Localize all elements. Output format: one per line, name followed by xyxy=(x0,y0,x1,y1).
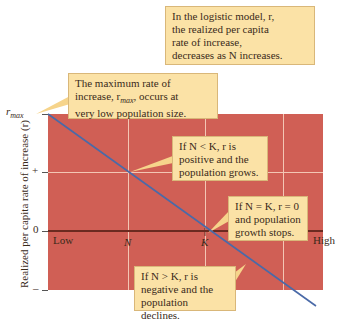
y-tick-zero: 0 xyxy=(33,223,39,235)
pointer-rmax xyxy=(36,96,70,114)
callout-text: negative and the xyxy=(141,283,229,296)
callout-text: rate of increase, xyxy=(172,36,308,49)
callout-text: the realized per capita xyxy=(172,23,308,36)
callout-text: very low population size. xyxy=(75,107,211,120)
callout-n-greater-k: If N > K, r is negative and the populati… xyxy=(134,266,236,311)
callout-text: If N > K, r is xyxy=(141,270,229,283)
y-tick-plus: + xyxy=(32,164,38,176)
callout-text: positive and the xyxy=(179,153,261,166)
callout-logistic-model: In the logistic model, r, the realized p… xyxy=(165,6,315,65)
callout-text: If N < K, r is xyxy=(179,140,261,153)
x-label-high: High xyxy=(313,234,335,246)
callout-text: population grows. xyxy=(179,166,261,179)
callout-text: In the logistic model, r, xyxy=(172,10,308,23)
y-tick-minus: – xyxy=(33,282,39,294)
callout-text: and population xyxy=(235,213,301,226)
callout-text: growth stops. xyxy=(235,226,301,239)
callout-rmax: The maximum rate of increase, rmax, occu… xyxy=(68,73,218,119)
y-axis-label: Realized per capita rate of increase (r) xyxy=(18,114,30,294)
callout-text: decreases as N increases. xyxy=(172,49,308,62)
callout-text: If N = K, r = 0 xyxy=(235,200,301,213)
callout-text: The maximum rate of xyxy=(75,77,211,90)
pointer-n-less-k xyxy=(130,154,178,172)
callout-n-less-k: If N < K, r is positive and the populati… xyxy=(172,136,268,181)
callout-text: increase, rmax, occurs at xyxy=(75,90,211,107)
x-label-low: Low xyxy=(53,234,73,246)
callout-text: population declines. xyxy=(141,296,229,322)
callout-n-equals-k: If N = K, r = 0 and population growth st… xyxy=(228,196,308,241)
x-label-n: N xyxy=(124,236,131,248)
x-label-k: K xyxy=(201,236,208,248)
